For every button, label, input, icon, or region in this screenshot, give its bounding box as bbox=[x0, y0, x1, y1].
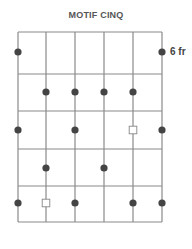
note-dot-icon bbox=[42, 88, 49, 95]
note-dot-icon bbox=[158, 199, 165, 206]
note-dot-icon bbox=[100, 88, 107, 95]
note-dot-icon bbox=[42, 164, 49, 171]
note-dot-icon bbox=[14, 199, 21, 206]
note-dot-icon bbox=[14, 126, 21, 133]
note-dot-icon bbox=[14, 48, 21, 55]
root-square-icon bbox=[42, 199, 50, 207]
note-dot-icon bbox=[129, 199, 136, 206]
root-square-icon bbox=[129, 126, 137, 134]
note-dot-icon bbox=[158, 126, 165, 133]
note-dot-icon bbox=[71, 126, 78, 133]
fret-position-label: 6 fr bbox=[170, 46, 186, 57]
note-dot-icon bbox=[100, 164, 107, 171]
note-dot-icon bbox=[71, 199, 78, 206]
note-dot-icon bbox=[71, 88, 78, 95]
fretboard-diagram bbox=[0, 0, 192, 249]
note-dot-icon bbox=[129, 88, 136, 95]
note-dot-icon bbox=[158, 48, 165, 55]
